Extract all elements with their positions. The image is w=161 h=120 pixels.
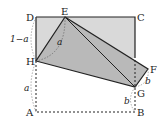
arc-HA	[31, 61, 36, 112]
label-A: A	[25, 107, 34, 118]
diagram-canvas: D E C H F G A B 1−a a a b b	[0, 0, 161, 120]
geometry-diagram: D E C H F G A B 1−a a a b b	[0, 0, 161, 120]
arc-GB	[131, 87, 136, 112]
label-B: B	[137, 107, 144, 118]
measure-HA: a	[24, 83, 29, 93]
label-H: H	[26, 56, 35, 67]
label-D: D	[26, 12, 34, 23]
measure-FG: b	[145, 76, 151, 86]
arc-DH	[31, 17, 36, 61]
label-E: E	[61, 6, 68, 17]
label-G: G	[137, 88, 145, 99]
measure-EH: a	[57, 37, 62, 47]
measure-GB: b	[124, 96, 130, 106]
label-C: C	[137, 12, 145, 23]
label-F: F	[150, 64, 157, 75]
measure-DH: 1−a	[10, 34, 29, 44]
